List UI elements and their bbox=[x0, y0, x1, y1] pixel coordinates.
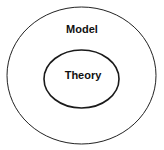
diagram-canvas: Model Theory bbox=[0, 0, 164, 150]
inner-label: Theory bbox=[65, 69, 103, 81]
outer-label: Model bbox=[66, 23, 98, 35]
nested-ellipses-diagram: Model Theory bbox=[0, 0, 164, 150]
